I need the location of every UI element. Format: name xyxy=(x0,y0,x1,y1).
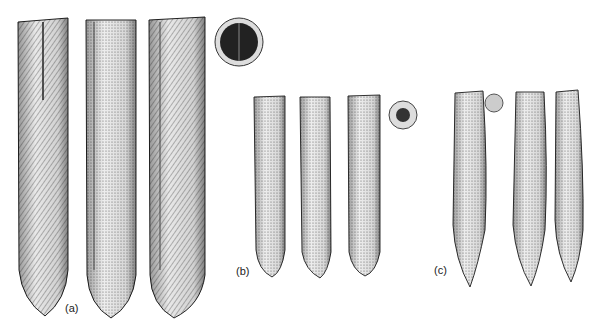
fossil-illustration xyxy=(0,0,596,333)
specimen-group-a xyxy=(18,17,263,318)
specimen-group-c xyxy=(453,90,583,287)
label-b: (b) xyxy=(236,265,249,277)
label-c: (c) xyxy=(434,264,447,276)
specimen-group-b xyxy=(254,95,417,278)
label-a: (a) xyxy=(65,302,78,314)
